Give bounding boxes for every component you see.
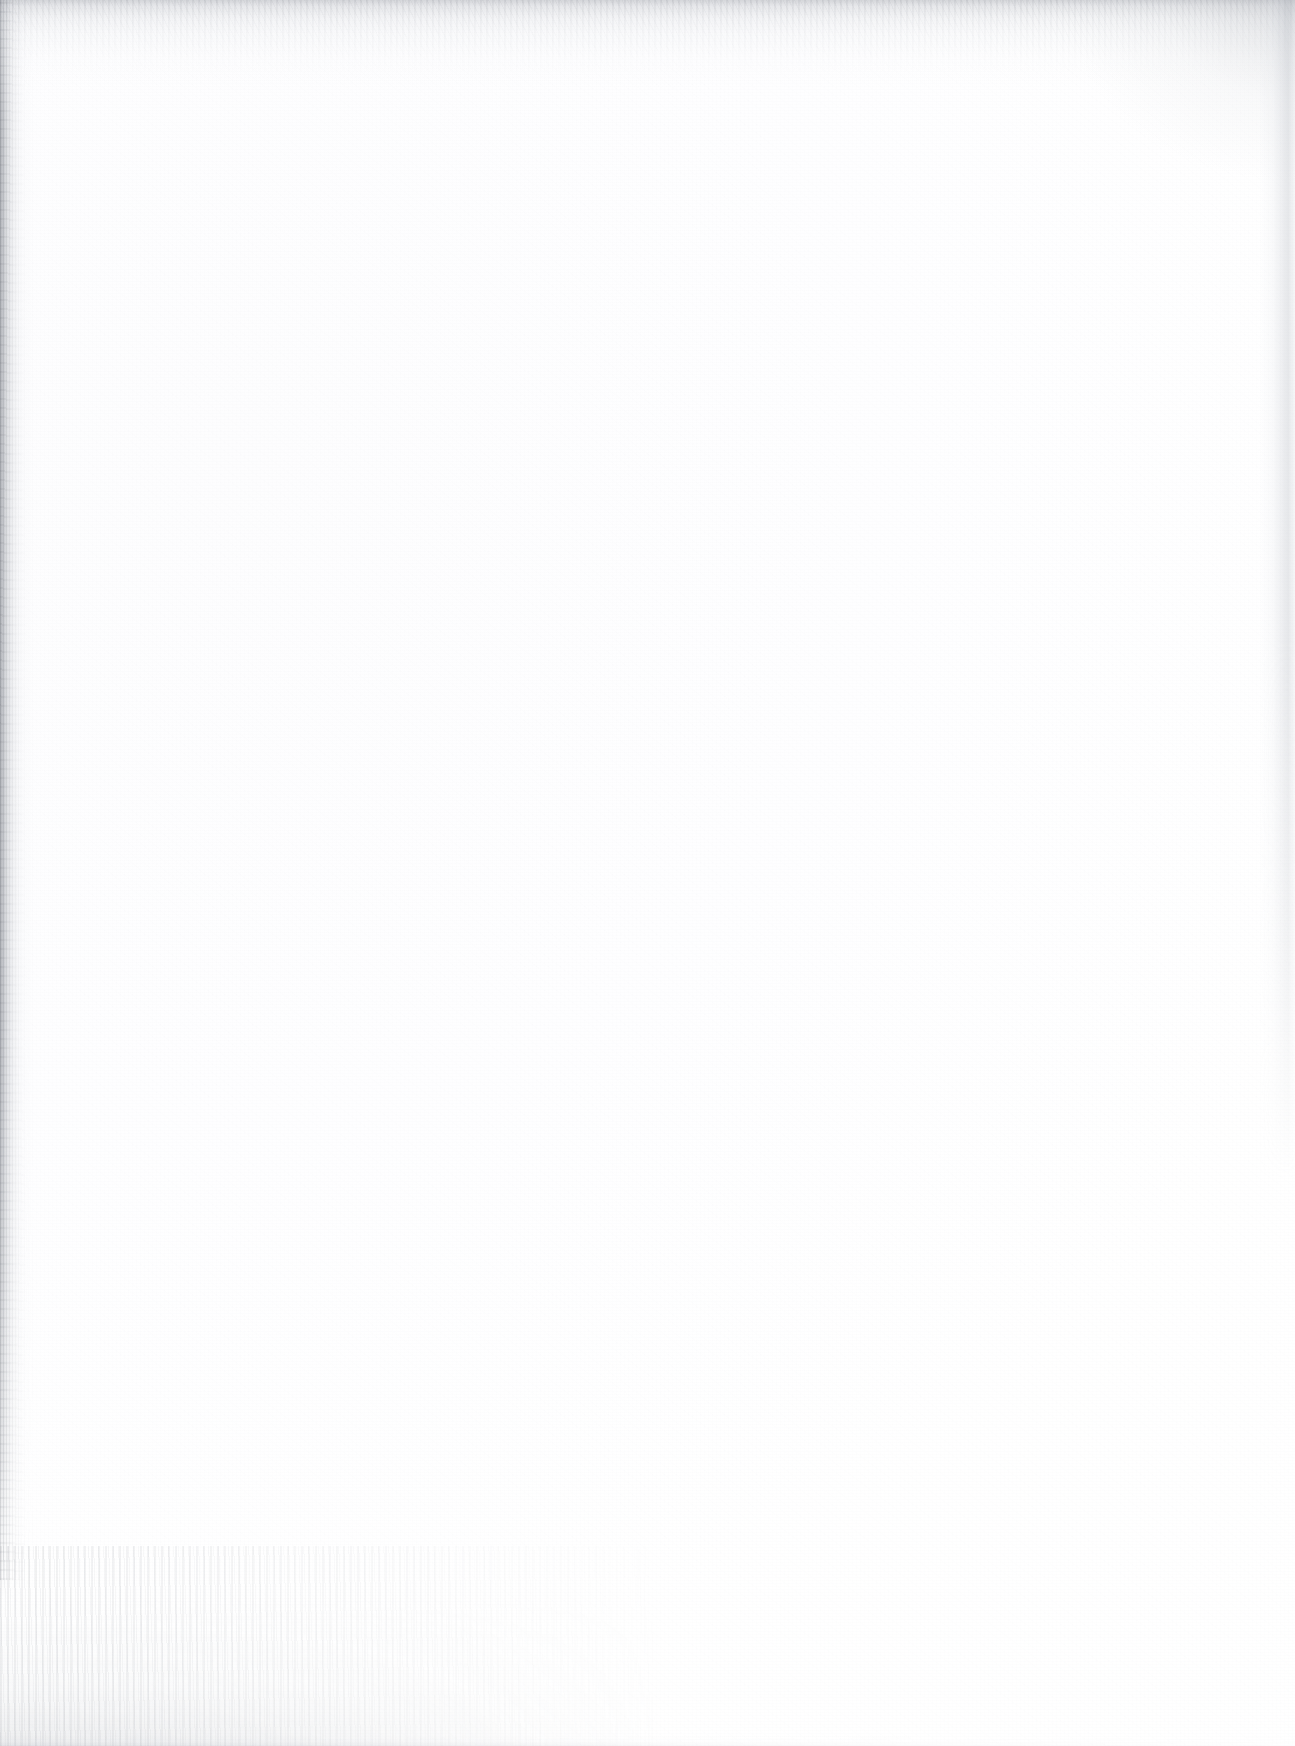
page-content-area — [150, 150, 1150, 1550]
scanned-page — [0, 0, 1295, 1746]
